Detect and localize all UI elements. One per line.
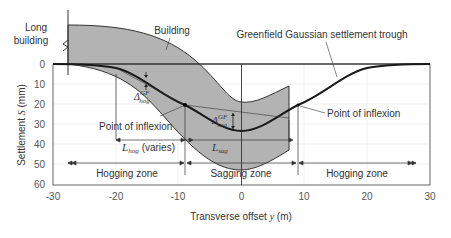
l-hog-label: Lhog(varies) xyxy=(121,141,175,155)
svg-text:30: 30 xyxy=(424,191,436,202)
svg-text:40: 40 xyxy=(34,139,46,150)
break-symbol-icon xyxy=(63,40,68,51)
building-label: Building xyxy=(154,25,190,36)
x-axis-title: Transverse offset y (m) xyxy=(190,211,292,222)
svg-text:30: 30 xyxy=(34,119,46,130)
y-axis-title: Settlement S (mm) xyxy=(16,84,27,166)
x-tick-labels: -30 -20 -10 0 10 20 30 xyxy=(46,191,436,202)
zone-label-sagging: Sagging zone xyxy=(210,168,272,179)
svg-text:60: 60 xyxy=(34,179,46,190)
svg-text:-30: -30 xyxy=(46,191,61,202)
svg-text:0: 0 xyxy=(39,59,45,70)
delta-hog-label: ΔGFhog xyxy=(133,89,150,105)
inflexion-left-label: Point of inflexion xyxy=(99,121,172,132)
svg-text:10: 10 xyxy=(34,79,46,90)
svg-text:building: building xyxy=(14,35,48,46)
long-building-label: Long xyxy=(25,22,47,33)
zone-label-hogging-left: Hogging zone xyxy=(96,168,158,179)
svg-text:-20: -20 xyxy=(109,191,124,202)
greenfield-label: Greenfield Gaussian settlement trough xyxy=(236,29,407,40)
inflexion-right-label: Point of inflexion xyxy=(327,108,400,119)
svg-text:20: 20 xyxy=(361,191,373,202)
svg-text:10: 10 xyxy=(298,191,310,202)
settlement-diagram: 0 10 20 30 40 50 60 -30 -20 -10 0 10 20 … xyxy=(0,0,451,238)
svg-text:50: 50 xyxy=(34,159,46,170)
svg-text:20: 20 xyxy=(34,99,46,110)
building-shape xyxy=(68,25,289,170)
zone-label-hogging-right: Hogging zone xyxy=(326,168,388,179)
y-tick-labels: 0 10 20 30 40 50 60 xyxy=(34,59,46,190)
svg-text:-10: -10 xyxy=(171,191,186,202)
svg-text:0: 0 xyxy=(239,191,245,202)
